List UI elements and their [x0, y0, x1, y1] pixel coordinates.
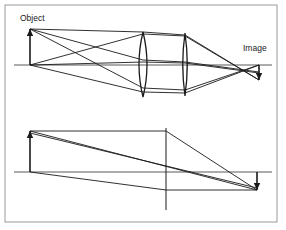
- object-label: Object: [20, 13, 45, 23]
- optics-figure: Object Image: [0, 0, 286, 230]
- image-label: Image: [243, 43, 267, 53]
- ray-diagram-svg: Object Image: [0, 0, 286, 230]
